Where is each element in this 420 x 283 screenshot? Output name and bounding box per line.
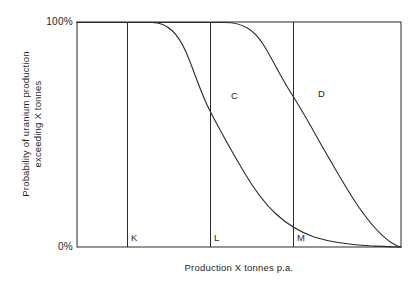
marker-label-l: L bbox=[214, 232, 219, 243]
curve-label-d: D bbox=[318, 88, 325, 99]
y-axis-max-label: 100% bbox=[46, 16, 73, 27]
marker-label-m: M bbox=[297, 232, 305, 243]
y-axis-title-line-1: Probability of uranium production bbox=[20, 51, 32, 196]
marker-label-k: K bbox=[131, 232, 137, 243]
chart-figure: Probability of uranium production exceed… bbox=[0, 0, 420, 283]
plot-frame bbox=[77, 22, 401, 247]
y-axis-min-label: 0% bbox=[58, 241, 73, 252]
curve-label-c: C bbox=[231, 90, 238, 101]
y-axis-title: Probability of uranium production exceed… bbox=[0, 0, 64, 247]
x-axis-title: Production X tonnes p.a. bbox=[77, 262, 401, 273]
y-axis-title-line-2: exceeding X tonnes bbox=[32, 51, 44, 196]
